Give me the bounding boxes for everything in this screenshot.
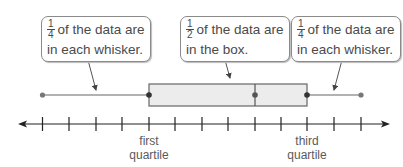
maximum-dot (358, 92, 363, 97)
right-callout-pointer (334, 60, 342, 90)
callout-text: in each whisker. (47, 41, 145, 58)
first-quartile-dot (146, 92, 152, 98)
third-quartile-label: third quartile (277, 134, 337, 162)
right-whisker-callout: 14of the data are in each whisker. (291, 16, 401, 62)
left-whisker-callout: 14of the data are in each whisker. (41, 16, 151, 62)
callout-text: in the box. (186, 41, 284, 58)
left-callout-pointer (88, 60, 96, 90)
third-quartile-dot (304, 92, 310, 98)
fraction: 14 (47, 19, 55, 40)
interquartile-box (149, 84, 307, 106)
callout-text: of the data are (197, 22, 284, 37)
callout-text: of the data are (58, 22, 145, 37)
middle-callout-pointer (225, 60, 230, 78)
number-line (18, 117, 390, 131)
minimum-dot (40, 92, 45, 97)
fraction: 12 (186, 19, 194, 40)
first-quartile-label: first quartile (119, 134, 179, 162)
callout-text: of the data are (308, 22, 395, 37)
median-dot (252, 92, 258, 98)
fraction: 14 (297, 19, 305, 40)
box-callout: 12of the data are in the box. (180, 16, 290, 62)
callout-text: in each whisker. (297, 41, 395, 58)
